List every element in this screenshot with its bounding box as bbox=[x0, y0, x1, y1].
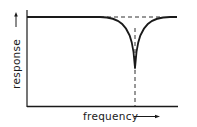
response-curve bbox=[27, 17, 177, 68]
y-axis-arrow-icon bbox=[14, 12, 18, 27]
y-axis-label: response bbox=[10, 39, 22, 89]
x-axis-label: frequency bbox=[83, 110, 138, 122]
notch-response-diagram: response frequency bbox=[0, 0, 197, 127]
